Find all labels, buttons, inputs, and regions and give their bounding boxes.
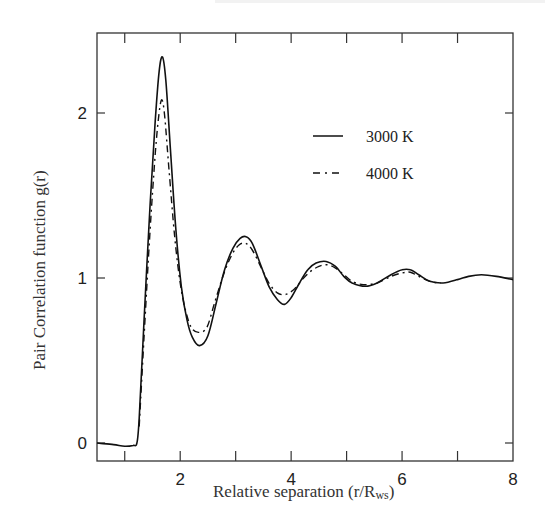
y-tick-label: 0	[78, 434, 87, 453]
plot-curves	[97, 57, 513, 447]
legend: 3000 K 4000 K	[313, 128, 414, 182]
tick-labels: 2468012	[78, 104, 518, 489]
x-axis-title-close: )	[389, 482, 395, 501]
x-tick-label: 2	[175, 470, 184, 489]
x-tick-label: 6	[397, 470, 406, 489]
chart-canvas: 2468012 3000 K 4000 K Relative separatio…	[0, 0, 545, 531]
x-tick-label: 8	[508, 470, 517, 489]
x-axis-title: Relative separation (r/Rws)	[213, 482, 394, 502]
legend-label-3000k: 3000 K	[366, 128, 414, 145]
y-tick-label: 2	[78, 104, 87, 123]
series-line-4000k	[139, 100, 441, 427]
plot-frame	[97, 33, 513, 461]
x-axis-title-subscript: ws	[375, 488, 389, 502]
x-axis-title-main: Relative separation (r/R	[213, 482, 376, 501]
y-axis-title: Pair Correlation function g(r)	[30, 170, 49, 370]
y-tick-label: 1	[78, 269, 87, 288]
legend-label-4000k: 4000 K	[366, 165, 414, 182]
axis-ticks	[97, 33, 513, 461]
